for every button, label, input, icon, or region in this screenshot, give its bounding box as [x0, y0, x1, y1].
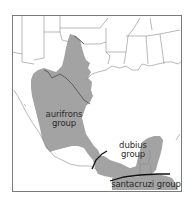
- dubius-group-label: dubius group: [116, 141, 150, 159]
- santacruzi-label: santacruzi group: [111, 179, 181, 189]
- aurifrons-label-line2: group: [42, 119, 86, 128]
- aurifrons-group-label: aurifrons group: [42, 110, 86, 128]
- santacruzi-group-label: santacruzi group: [110, 180, 182, 189]
- dubius-label-line2: group: [116, 150, 150, 159]
- range-map: aurifrons group dubius group santacruzi …: [0, 0, 192, 205]
- map-svg: [0, 0, 192, 205]
